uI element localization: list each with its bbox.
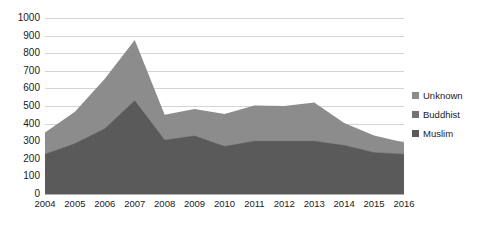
y-axis-tick-label: 700 (0, 66, 40, 76)
y-axis-tick-label: 200 (0, 154, 40, 164)
y-axis-tick-label: 800 (0, 48, 40, 58)
legend-swatch-icon (412, 111, 419, 118)
legend-item-label: Unknown (423, 90, 463, 101)
x-axis-tick-label: 2007 (124, 198, 145, 210)
chart-legend: UnknownBuddhistMuslim (412, 86, 484, 143)
x-axis-tick-label: 2008 (154, 198, 175, 210)
y-axis-tick-label: 600 (0, 83, 40, 93)
x-axis-tick-label: 2005 (64, 198, 85, 210)
y-axis-tick-label: 400 (0, 119, 40, 129)
x-axis: 2004200520062007200820092010201120122013… (45, 198, 404, 214)
legend-item[interactable]: Buddhist (412, 105, 484, 124)
legend-item-label: Buddhist (423, 109, 460, 120)
y-axis: 01002003004005006007008009001000 (0, 0, 40, 228)
y-axis-tick-label: 300 (0, 136, 40, 146)
x-axis-tick-label: 2016 (393, 198, 414, 210)
legend-swatch-icon (412, 92, 419, 99)
plot-area (45, 18, 404, 194)
y-axis-tick-label: 900 (0, 31, 40, 41)
x-axis-tick-label: 2012 (274, 198, 295, 210)
gridline (45, 194, 404, 195)
y-axis-tick-label: 500 (0, 101, 40, 111)
x-axis-tick-label: 2004 (34, 198, 55, 210)
x-axis-tick-label: 2006 (94, 198, 115, 210)
legend-item-label: Muslim (423, 128, 453, 139)
legend-item[interactable]: Muslim (412, 124, 484, 143)
legend-item[interactable]: Unknown (412, 86, 484, 105)
y-axis-tick-label: 100 (0, 171, 40, 181)
x-axis-tick-label: 2011 (244, 198, 264, 210)
stacked-area-chart: 01002003004005006007008009001000 2004200… (0, 0, 484, 228)
legend-swatch-icon (412, 130, 419, 137)
x-axis-tick-label: 2013 (304, 198, 325, 210)
x-axis-tick-label: 2009 (184, 198, 205, 210)
y-axis-tick-label: 0 (0, 189, 40, 199)
y-axis-tick-label: 1000 (0, 13, 40, 23)
x-axis-tick-label: 2014 (334, 198, 355, 210)
area-series-layer (45, 18, 404, 194)
x-axis-tick-label: 2015 (364, 198, 385, 210)
x-axis-tick-label: 2010 (214, 198, 235, 210)
